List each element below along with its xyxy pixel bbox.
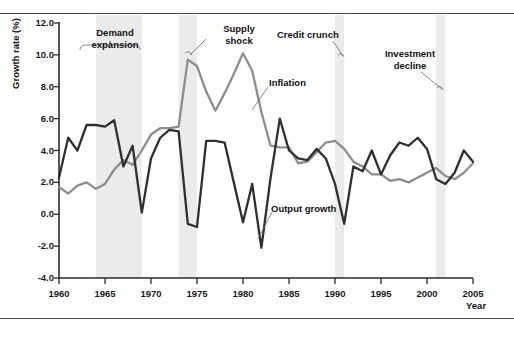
- y-tick-label-0: 0.0: [6, 208, 54, 219]
- y-tick-label-10: 10.0: [6, 49, 54, 60]
- x-tick-label-1960: 1960: [37, 288, 81, 299]
- x-tick-label-1990: 1990: [313, 288, 357, 299]
- annotation-inflation: Inflation: [269, 77, 306, 89]
- annotation-investment-decline-line2: decline: [368, 60, 452, 72]
- y-tick-label--4: -4.0: [6, 272, 54, 283]
- annotation-supply-shock: Supply shock: [209, 23, 269, 46]
- annotation-demand-expansion-line2: expansion: [78, 39, 152, 51]
- x-tick-label-2005: 2005: [451, 288, 495, 299]
- y-tick-label-4: 4.0: [6, 145, 54, 156]
- x-tick-label-1995: 1995: [359, 288, 403, 299]
- y-tick-label--2: -2.0: [6, 240, 54, 251]
- x-tick-label-1980: 1980: [221, 288, 265, 299]
- annotation-investment-decline-line1: Investment: [368, 48, 452, 60]
- x-tick-label-1975: 1975: [175, 288, 219, 299]
- annotation-demand-expansion-line1: Demand: [78, 27, 152, 39]
- y-tick-label-12: 12.0: [6, 17, 54, 28]
- y-tick-label-2: 2.0: [6, 176, 54, 187]
- x-tick-label-1970: 1970: [129, 288, 173, 299]
- supply-shock-band: [179, 15, 197, 278]
- figure-container: Growth rate (%) Year 12.010.08.06.04.02.…: [0, 0, 514, 342]
- x-tick-label-2000: 2000: [405, 288, 449, 299]
- x-tick-label-1985: 1985: [267, 288, 311, 299]
- y-tick-label-6: 6.0: [6, 113, 54, 124]
- annotation-supply-shock-line1: Supply: [209, 23, 269, 35]
- annotation-investment-decline: Investment decline: [368, 48, 452, 71]
- annotation-output-growth: Output growth: [271, 203, 336, 215]
- y-tick-label-8: 8.0: [6, 81, 54, 92]
- annotation-supply-shock-line2: shock: [209, 35, 269, 47]
- annotation-demand-expansion: Demand expansion: [78, 27, 152, 50]
- x-axis-title: Year: [466, 300, 486, 311]
- annotation-credit-crunch: Credit crunch: [277, 29, 339, 41]
- x-tick-label-1965: 1965: [83, 288, 127, 299]
- x-tick-marks: [59, 278, 473, 284]
